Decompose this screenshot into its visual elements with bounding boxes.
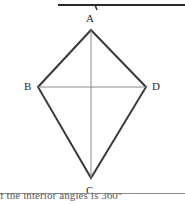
kite-svg	[0, 0, 185, 204]
vertex-label-a: A	[86, 13, 94, 24]
vertex-label-d: D	[152, 81, 160, 92]
bottom-caption-text: f the interior angles is 360°	[0, 193, 185, 201]
diagram-page: A B C D f the interior angles is 360°	[0, 0, 185, 204]
bottom-caption-region: f the interior angles is 360°	[0, 193, 185, 204]
kite-outline-path	[38, 30, 146, 178]
vertex-label-b: B	[24, 81, 31, 92]
kite-figure: A B C D	[0, 0, 185, 204]
